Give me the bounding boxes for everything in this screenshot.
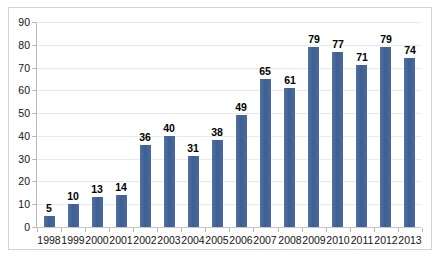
bar-chart-figure: 9080706050403020100 51013143640313849656… [0,0,442,267]
category-axis-labels: 1998199920002001200220032004200520062007… [0,0,442,267]
category-label-2013: 2013 [395,234,425,246]
